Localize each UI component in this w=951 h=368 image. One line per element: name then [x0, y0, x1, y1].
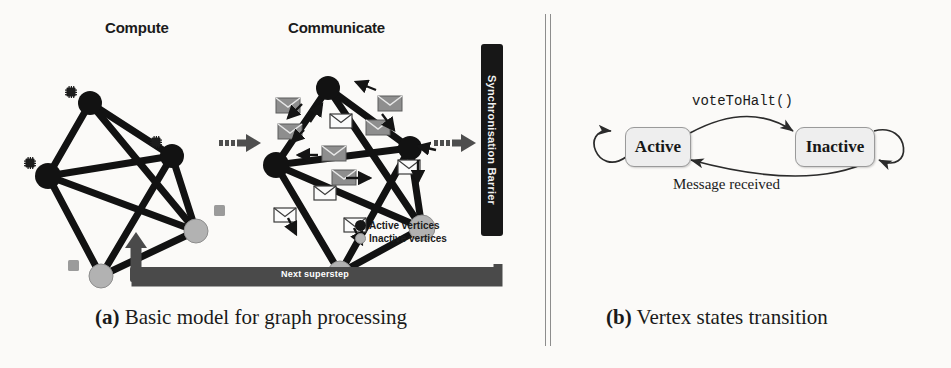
vertex-active: [35, 163, 61, 189]
caption-panel-b: (b) Vertex states transition: [606, 305, 828, 330]
vertex-active: [263, 152, 289, 178]
caption-a-prefix: (a): [95, 305, 120, 329]
caption-b-prefix: (b): [606, 305, 632, 329]
state-label-active: Active: [635, 137, 681, 157]
figure-root: Compute Communicate: [0, 0, 951, 368]
vertex-inactive: [89, 264, 113, 288]
dotted-arrow-right-icon: [434, 132, 478, 154]
transition-label-message-received: Message received: [673, 176, 780, 193]
synchronisation-barrier-label: Synchronisation Barrier: [486, 75, 498, 205]
legend-item-active: Active vertices: [355, 219, 480, 231]
stage-title-communicate: Communicate: [288, 19, 385, 36]
transition-label-votetohalt: voteToHalt(): [692, 93, 793, 109]
next-superstep-label: Next superstep: [130, 267, 500, 282]
vertex-active: [160, 144, 184, 168]
stage-title-compute: Compute: [105, 19, 169, 36]
vertex-active: [78, 91, 102, 115]
synchronisation-barrier: Synchronisation Barrier: [481, 44, 503, 236]
state-node-active[interactable]: Active: [625, 127, 691, 167]
panel-b-state-transition: Active Inactive voteToHalt() Message rec…: [549, 0, 951, 368]
vertex-active: [316, 76, 340, 100]
panel-a-basic-model: Compute Communicate: [0, 0, 545, 368]
caption-a-text: Basic model for graph processing: [125, 305, 407, 329]
legend-label-active: Active vertices: [369, 220, 440, 231]
panel-divider-line-left: [545, 14, 546, 346]
compute-graph: [18, 38, 233, 263]
state-node-inactive[interactable]: Inactive: [795, 127, 875, 167]
state-label-inactive: Inactive: [806, 137, 865, 157]
dotted-arrow-right-icon: [219, 132, 263, 154]
caption-panel-a: (a) Basic model for graph processing: [95, 305, 407, 330]
vertex-active: [398, 136, 422, 160]
caption-b-text: Vertex states transition: [637, 305, 828, 329]
filled-circle-icon: [355, 220, 366, 231]
state-transition-arcs: [549, 0, 951, 300]
